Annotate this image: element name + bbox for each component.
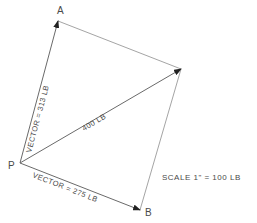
vector-pa-label: VECTOR = 313 LB — [24, 84, 51, 153]
side-a-to-r — [58, 21, 181, 69]
vector-pb-arrow — [20, 163, 140, 210]
point-label-a: A — [57, 5, 64, 16]
resultant-label: 400 LB — [80, 112, 107, 133]
vector-pb-label: VECTOR = 275 LB — [31, 170, 99, 204]
vector-diagram: A P B VECTOR = 313 LB VECTOR = 275 LB 40… — [0, 0, 257, 223]
side-b-to-r — [140, 69, 181, 210]
vector-pa-arrow — [20, 21, 58, 163]
point-label-p: P — [8, 160, 15, 171]
point-label-b: B — [145, 207, 152, 218]
scale-note: SCALE 1" = 100 LB — [162, 173, 241, 182]
